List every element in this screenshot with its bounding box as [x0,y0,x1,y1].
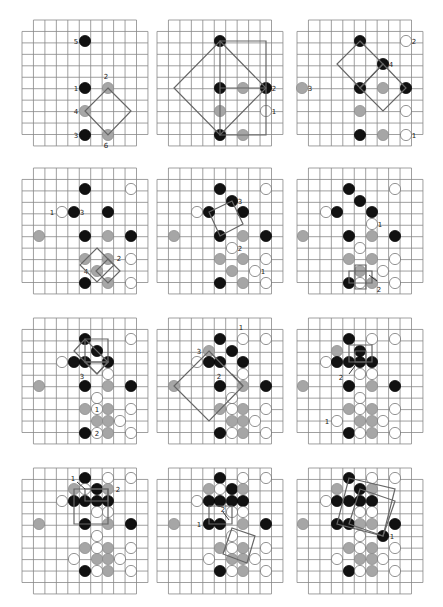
move-number-label: 2 [116,486,120,494]
gray-stone [366,542,377,553]
board-grid: 132 [157,318,303,464]
move-number-label: 2 [377,286,381,294]
white-stone [331,415,342,426]
white-stone [260,333,271,344]
white-stone [366,218,377,229]
white-stone [226,403,237,414]
move-number-label: 2 [221,506,225,514]
gray-stone [366,427,377,438]
gray-stone [366,565,377,576]
move-number-label: 1 [197,521,201,529]
black-stone [79,230,90,241]
black-stone [79,129,90,140]
board-grid: 1342 [22,168,168,314]
white-stone [91,506,102,517]
black-stone [68,206,79,217]
white-stone [377,553,388,564]
white-stone [125,253,136,264]
black-stone [343,565,354,576]
white-stone [400,105,411,116]
gray-stone [33,518,44,529]
board-grid: 123 [22,318,168,464]
move-number-label: 1 [272,108,276,116]
black-stone [79,380,90,391]
gray-stone [297,518,308,529]
black-stone [68,356,79,367]
move-number-label: 2 [339,374,343,382]
board-grid: 2431 [297,20,443,166]
move-number-label: 1 [325,418,329,426]
board-grid: 12 [157,468,303,607]
gray-stone [168,230,179,241]
black-stone [125,518,136,529]
black-stone [343,333,354,344]
black-stone [260,230,271,241]
white-stone [320,356,331,367]
black-stone [226,483,237,494]
white-stone [226,542,237,553]
white-stone [366,368,377,379]
black-stone [354,195,365,206]
black-stone [237,495,248,506]
black-stone [214,277,225,288]
black-stone [260,518,271,529]
black-stone [214,472,225,483]
white-stone [354,542,365,553]
gray-stone [366,253,377,264]
black-stone [125,380,136,391]
move-number-label: 1 [95,406,99,414]
black-stone [214,183,225,194]
white-stone [214,483,225,494]
gray-stone [296,82,307,93]
gray-stone [237,253,248,264]
white-stone [114,415,125,426]
move-number-label: 1 [71,475,75,483]
board-panel-7: 123 [22,318,152,448]
gray-stone [237,427,248,438]
white-stone [354,506,365,517]
board-panel-5: 321 [157,168,287,298]
black-stone [343,230,354,241]
move-number-label: 2 [217,373,221,381]
white-stone [91,542,102,553]
white-stone [354,530,365,541]
black-stone [331,206,342,217]
gray-stone [237,415,248,426]
move-number-label: 3 [197,348,201,356]
white-stone [354,392,365,403]
gray-stone [226,415,237,426]
board-grid: 12 [297,318,443,464]
black-stone [102,206,113,217]
black-stone [260,380,271,391]
gray-stone [102,230,113,241]
gray-stone [91,553,102,564]
black-stone [79,565,90,576]
board-panel-11: 12 [157,468,287,598]
white-stone [249,415,260,426]
black-stone [343,183,354,194]
black-stone [366,206,377,217]
white-stone [191,206,202,217]
white-stone [354,368,365,379]
white-stone [237,368,248,379]
white-stone [389,183,400,194]
white-stone [377,265,388,276]
gray-stone [33,230,44,241]
move-number-label: 1 [390,533,394,541]
black-stone [214,495,225,506]
white-stone [102,472,113,483]
gray-stone [33,380,44,391]
white-stone [68,553,79,564]
gray-stone [377,129,388,140]
gray-stone [237,542,248,553]
gray-stone [79,403,90,414]
white-stone [125,183,136,194]
move-number-label: 4 [389,61,394,69]
white-stone [125,403,136,414]
black-stone [125,230,136,241]
gray-stone [366,553,377,564]
board-panel-2: 21 [157,20,287,150]
black-stone [214,427,225,438]
gray-stone [237,230,248,241]
move-number-label: 1 [261,268,265,276]
